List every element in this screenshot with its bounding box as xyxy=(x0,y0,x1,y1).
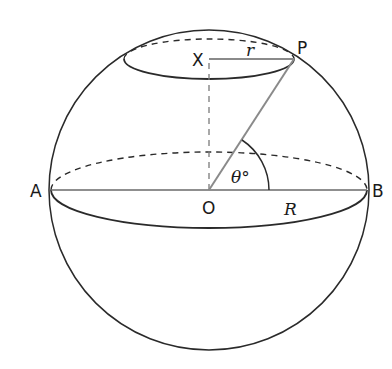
label-angle: θ° xyxy=(231,167,250,187)
label-A: A xyxy=(30,181,42,201)
label-small-radius: r xyxy=(246,40,255,60)
label-P: P xyxy=(297,38,307,58)
label-X: X xyxy=(192,50,204,70)
label-big-radius: R xyxy=(283,199,297,219)
label-B: B xyxy=(372,181,384,201)
sphere-diagram: A B O X P r R θ° xyxy=(0,0,392,369)
label-O: O xyxy=(202,198,215,218)
